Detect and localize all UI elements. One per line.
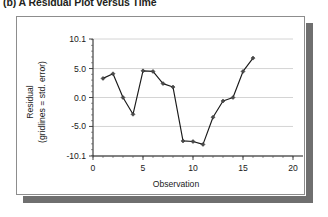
residual-series <box>101 56 255 146</box>
data-point <box>101 76 105 80</box>
data-point <box>231 96 235 100</box>
data-point <box>181 139 185 143</box>
x-tick-labels: 05101520 <box>91 163 298 173</box>
x-tick-label: 5 <box>141 163 146 173</box>
y-tick-labels: -10.1-5.00.05.010.1 <box>66 34 86 161</box>
x-tick-label: 20 <box>288 163 298 173</box>
y-tick-label: -5.0 <box>71 121 86 131</box>
x-tick-label: 0 <box>91 163 96 173</box>
residual-plot: -10.1-5.00.05.010.1 05101520 Observation… <box>17 17 304 194</box>
x-tick-label: 10 <box>188 163 198 173</box>
residual-plot-svg: -10.1-5.00.05.010.1 05101520 Observation… <box>17 17 306 196</box>
x-tick-label: 15 <box>238 163 248 173</box>
y-tick-label: -10.1 <box>66 151 86 161</box>
chart-panel: -10.1-5.00.05.010.1 05101520 Observation… <box>16 16 305 195</box>
data-point <box>191 140 195 144</box>
data-point <box>171 85 175 89</box>
y-tick-label: 5.0 <box>74 64 86 74</box>
panel-shadow-right <box>306 23 313 202</box>
panel-shadow-bottom <box>23 196 313 203</box>
data-point <box>111 72 115 76</box>
y-tick-label: 10.1 <box>69 34 86 44</box>
series-line <box>103 58 253 144</box>
y-axis-title-line2: (gridlines = std. error) <box>37 61 47 143</box>
data-point <box>141 69 145 73</box>
y-tick-label: 0.0 <box>74 93 86 103</box>
x-axis-title: Observation <box>153 179 200 189</box>
data-point <box>201 142 205 146</box>
y-axis-title-line1: Residual <box>25 85 35 119</box>
figure-caption: (b) A Residual Plot versus Time <box>3 0 156 8</box>
